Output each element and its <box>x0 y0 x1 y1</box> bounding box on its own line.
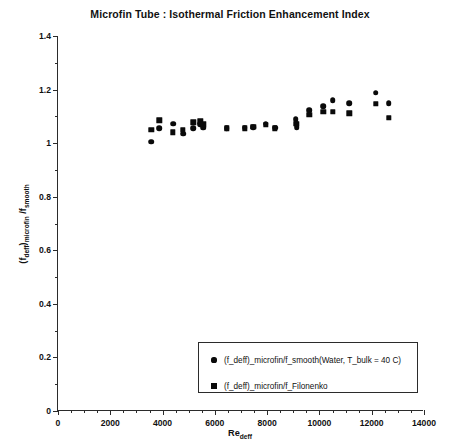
data-point-series-2 <box>201 122 206 127</box>
data-point-series-2 <box>373 101 378 106</box>
x-tick-minor <box>254 410 255 413</box>
x-tick-minor <box>346 410 347 413</box>
x-tick-label: 10000 <box>307 418 331 428</box>
data-point-series-1 <box>386 100 392 106</box>
y-tick-label: 0.6 <box>39 245 51 255</box>
x-tick-major <box>163 410 164 415</box>
legend-item-circle: (f_deff)_microfin/f_smooth(Water, T_bulk… <box>209 351 417 369</box>
x-tick-minor <box>84 410 85 413</box>
x-tick-minor <box>136 410 137 413</box>
x-tick-label: 2000 <box>101 418 120 428</box>
data-point-series-2 <box>170 130 175 135</box>
x-tick-label: 0 <box>56 418 61 428</box>
x-tick-minor <box>333 410 334 413</box>
x-tick-major <box>319 410 320 415</box>
y-tick-label: 1.2 <box>39 85 51 95</box>
legend-circle-marker-icon <box>209 357 219 362</box>
x-tick-minor <box>176 410 177 413</box>
x-axis-title-text: Re <box>228 428 240 438</box>
data-point-series-2 <box>149 127 154 132</box>
x-tick-major <box>215 410 216 415</box>
data-point-series-2 <box>242 126 247 131</box>
legend-square-marker-icon <box>209 383 219 388</box>
x-tick-label: 14000 <box>412 418 436 428</box>
y-axis-title-text: (f <box>18 257 28 263</box>
x-tick-minor <box>202 410 203 413</box>
x-axis-sub-deff: deff <box>240 433 252 440</box>
data-point-series-1 <box>170 121 176 127</box>
y-tick-label: 1.4 <box>39 31 51 41</box>
x-tick-label: 4000 <box>153 418 172 428</box>
data-point-series-2 <box>263 122 268 127</box>
y-tick-label: 0.8 <box>39 192 51 202</box>
x-tick-minor <box>359 410 360 413</box>
legend-label-filonenko: (f_deff)_microfin/f_Filonenko <box>224 382 328 391</box>
x-tick-minor <box>189 410 190 413</box>
data-point-series-1 <box>373 90 379 96</box>
x-tick-minor <box>97 410 98 413</box>
data-point-series-1 <box>347 100 353 106</box>
y-tick-label: 0.4 <box>39 299 51 309</box>
data-point-series-2 <box>294 121 299 126</box>
data-point-series-2 <box>330 109 335 114</box>
x-tick-major <box>267 410 268 415</box>
y-tick-label: 1 <box>46 138 51 148</box>
y-tick-label: 0.2 <box>39 352 51 362</box>
legend-item-square: (f_deff)_microfin/f_Filonenko <box>209 377 417 395</box>
data-point-series-1 <box>330 97 336 103</box>
data-point-series-2 <box>157 118 162 123</box>
data-point-series-1 <box>157 126 163 132</box>
chart-title: Microfin Tube : Isothermal Friction Enha… <box>0 8 460 20</box>
y-axis-title: (fdeff)microfin /fsmooth <box>17 36 31 411</box>
x-tick-major <box>372 410 373 415</box>
x-tick-major <box>58 410 59 415</box>
x-tick-minor <box>150 410 151 413</box>
x-tick-minor <box>293 410 294 413</box>
chart-legend: (f_deff)_microfin/f_smooth(Water, T_bulk… <box>198 342 418 393</box>
y-axis-title-tail: /f <box>18 208 28 216</box>
x-axis-title: Redeff <box>57 428 423 440</box>
x-tick-major <box>110 410 111 415</box>
data-point-series-2 <box>224 126 229 131</box>
data-point-series-2 <box>272 126 277 131</box>
data-point-series-2 <box>191 120 196 125</box>
x-tick-minor <box>385 410 386 413</box>
y-axis-sub-smooth: smooth <box>23 184 30 208</box>
y-tick-label: 0 <box>46 406 51 416</box>
x-tick-minor <box>228 410 229 413</box>
y-axis-sub-deff: deff <box>23 245 30 257</box>
data-point-series-2 <box>347 110 352 115</box>
x-tick-major <box>424 410 425 415</box>
x-tick-minor <box>71 410 72 413</box>
x-tick-minor <box>398 410 399 413</box>
data-point-series-1 <box>149 139 155 145</box>
data-point-series-2 <box>251 124 256 129</box>
x-tick-minor <box>280 410 281 413</box>
data-point-series-2 <box>386 115 391 120</box>
data-point-series-2 <box>307 112 312 117</box>
x-tick-minor <box>241 410 242 413</box>
y-axis-sub-microfin: microfin <box>23 216 30 242</box>
data-point-series-2 <box>180 127 185 132</box>
x-tick-minor <box>306 410 307 413</box>
x-tick-minor <box>411 410 412 413</box>
x-tick-label: 6000 <box>205 418 224 428</box>
chart-figure: Microfin Tube : Isothermal Friction Enha… <box>0 0 460 444</box>
x-tick-label: 12000 <box>360 418 384 428</box>
legend-label-smooth: (f_deff)_microfin/f_smooth(Water, T_bulk… <box>224 356 401 365</box>
data-point-series-1 <box>191 126 197 132</box>
x-tick-label: 8000 <box>258 418 277 428</box>
data-point-series-2 <box>321 109 326 114</box>
x-tick-minor <box>123 410 124 413</box>
